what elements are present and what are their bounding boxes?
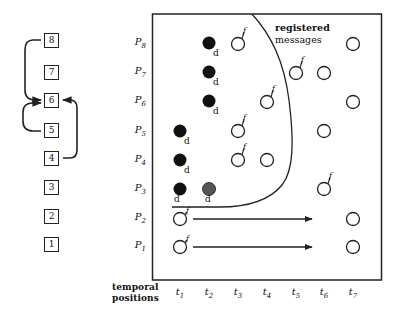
mark-f: f: [272, 84, 275, 93]
col-label-t4: t4: [257, 286, 277, 300]
axis-title-line2: positions: [112, 293, 159, 304]
point-open: [347, 96, 360, 109]
arrow-5-to-6: [23, 103, 41, 131]
f-tails: [185, 32, 330, 242]
col-label-t3: t3: [228, 286, 248, 300]
mark-f: f: [186, 206, 189, 215]
point-open: [261, 96, 274, 109]
mark-d: d: [184, 165, 190, 175]
point-open: [318, 183, 331, 196]
point-open: [290, 67, 303, 80]
mark-f: f: [243, 26, 246, 35]
col-label-t7: t7: [343, 286, 363, 300]
point-open: [318, 67, 331, 80]
row-label-p4: P4: [122, 153, 146, 167]
mark-f: f: [186, 234, 189, 243]
mark-f: f: [301, 55, 304, 64]
mark-f: f: [329, 171, 332, 180]
row-label-p3: P3: [122, 182, 146, 196]
col-label-t1: t1: [170, 286, 190, 300]
point-open: [232, 125, 245, 138]
row-label-p8: P8: [122, 36, 146, 50]
row-label-p6: P6: [122, 94, 146, 108]
point-open: [347, 213, 360, 226]
row-label-p1: P1: [122, 239, 146, 253]
row-label-p2: P2: [122, 211, 146, 225]
legend-line1: registered: [275, 22, 330, 34]
diagram-canvas: [0, 0, 399, 316]
arrow-8-to-6: [25, 40, 41, 100]
row-label-p5: P5: [122, 124, 146, 138]
point-open: [232, 38, 245, 51]
legend-registered-messages: registered messages: [275, 22, 330, 46]
legend-line2: messages: [275, 34, 330, 46]
mark-f: f: [243, 142, 246, 151]
point-open: [174, 213, 187, 226]
row-label-p7: P7: [122, 65, 146, 79]
mark-d: d: [184, 136, 190, 146]
mark-d: d: [213, 106, 219, 116]
point-open: [347, 38, 360, 51]
mark-f: f: [243, 113, 246, 122]
mark-d: d: [174, 194, 180, 204]
col-label-t5: t5: [286, 286, 306, 300]
axis-title-temporal-positions: temporal positions: [112, 282, 159, 304]
point-open: [174, 241, 187, 254]
point-open: [347, 241, 360, 254]
mark-d: d: [213, 48, 219, 58]
point-open: [261, 154, 274, 167]
mark-d: d: [213, 77, 219, 87]
mark-d: d: [205, 194, 211, 204]
col-label-t6: t6: [314, 286, 334, 300]
point-open: [232, 154, 245, 167]
col-label-t2: t2: [199, 286, 219, 300]
point-open: [318, 125, 331, 138]
left-arrows: [23, 40, 77, 158]
arrow-4-to-6: [63, 100, 77, 158]
points: [174, 37, 360, 254]
axis-title-line1: temporal: [112, 282, 159, 293]
